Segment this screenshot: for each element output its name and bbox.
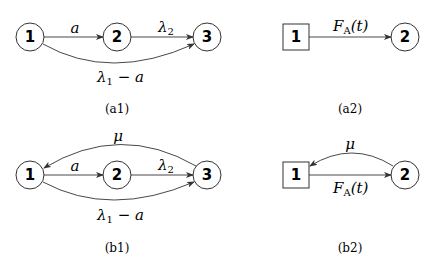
a2-node-2: 2 <box>391 23 419 51</box>
b2-edge-2-1-label: μ <box>345 135 355 153</box>
b2-node-2-label: 2 <box>400 166 410 184</box>
b2-edge-1-2-label: FA(t) <box>332 179 369 198</box>
panel-b1: 1 2 3 a λ2 λ1 − a μ (b1) <box>16 127 221 255</box>
b1-node-1-label: 1 <box>25 166 35 184</box>
a2-caption: (a2) <box>338 102 362 116</box>
b2-node-1-label: 1 <box>291 166 301 184</box>
a1-caption: (a1) <box>105 102 129 116</box>
b1-caption: (b1) <box>105 241 130 255</box>
panel-a2: 1 2 FA(t) (a2) <box>283 17 419 116</box>
diagram-canvas: 1 2 3 a λ2 λ1 − a (a1) 1 2 FA(t) (a2) <box>0 0 439 267</box>
a2-node-1: 1 <box>283 24 309 50</box>
a1-edge-2-3-label: λ2 <box>157 18 174 37</box>
panel-b2: 1 2 FA(t) μ (b2) <box>283 135 419 255</box>
a1-node-1-label: 1 <box>25 28 35 46</box>
b1-node-1: 1 <box>16 161 44 189</box>
a1-node-2: 2 <box>103 23 131 51</box>
panel-a1: 1 2 3 a λ2 λ1 − a (a1) <box>16 18 221 116</box>
a1-edge-1-3-label: λ1 − a <box>96 68 144 87</box>
a2-edge-1-2-label: FA(t) <box>332 17 369 36</box>
b1-edge-3-1-label: μ <box>113 127 123 145</box>
b1-edge-1-3-label: λ1 − a <box>96 206 144 225</box>
b2-node-1: 1 <box>283 162 309 188</box>
b1-node-2-label: 2 <box>112 166 122 184</box>
a1-node-3: 3 <box>193 23 221 51</box>
b2-edge-2-1 <box>310 153 393 166</box>
b1-edge-2-3-label: λ2 <box>157 156 174 175</box>
b2-node-2: 2 <box>391 161 419 189</box>
b1-node-3: 3 <box>193 161 221 189</box>
a1-edge-1-2-label: a <box>71 19 80 37</box>
b1-node-3-label: 3 <box>202 166 212 184</box>
a1-node-1: 1 <box>16 23 44 51</box>
b2-caption: (b2) <box>338 241 363 255</box>
a2-node-1-label: 1 <box>291 28 301 46</box>
a1-node-3-label: 3 <box>202 28 212 46</box>
b1-edge-1-2-label: a <box>71 157 80 175</box>
b1-node-2: 2 <box>103 161 131 189</box>
a2-node-2-label: 2 <box>400 28 410 46</box>
a1-node-2-label: 2 <box>112 28 122 46</box>
